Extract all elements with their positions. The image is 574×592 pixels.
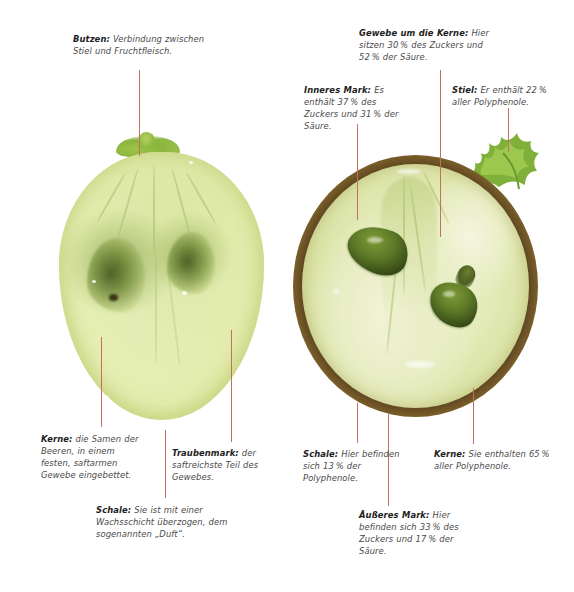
leader-line-kerne-rechts [473,388,474,444]
grape-seed-highlight [367,237,383,243]
annotation-term: Inneres Mark: [304,85,371,95]
grape-anatomy-figure: Butzen: Verbindung zwischen Stiel und Fr… [0,0,574,592]
grape-seed-dark-spot [109,294,118,301]
leader-line-kerne-links [101,337,102,427]
grape-highlight [397,169,421,174]
annotation-gewebe-um-die-kerne: Gewebe um die Kerne: Hier sitzen 30 % de… [359,27,495,63]
grape-highlight [105,396,109,399]
grape-vascular-strand [403,175,405,295]
annotation-butzen: Butzen: Verbindung zwischen Stiel und Fr… [73,33,223,57]
grape-highlight [333,289,340,294]
leader-line-traubenmark [231,330,232,442]
annotation-term: Äußeres Mark: [359,510,430,520]
amber-grape-cross-section-image [293,155,538,417]
grape-highlight [182,291,187,295]
annotation-term: Stiel: [452,85,477,95]
leader-line-gewebe-um-die-kerne [440,70,441,237]
annotation-term: Gewebe um die Kerne: [359,28,468,38]
annotation-term: Traubenmark: [172,448,239,458]
leader-line-schale-links [165,430,166,498]
grape-vein [153,164,155,256]
annotation-term: Schale: [303,449,338,459]
annotation-term: Schale: [96,505,131,515]
leader-line-inneres-mark [357,124,358,220]
annotation-kerne-links: Kerne: die Samen der Beeren, in einem fe… [41,433,145,481]
annotation-kerne-rechts: Kerne: Sie enthalten 65 % aller Polyphen… [434,448,552,472]
leader-line-stiel [508,108,509,152]
annotation-schale-rechts: Schale: Hier befinden sich 13 % der Poly… [303,448,403,484]
annotation-term: Kerne: [434,449,465,459]
grape-stem-nub-left [139,132,155,149]
grape-seed-cavity [87,238,145,312]
annotation-inneres-mark: Inneres Mark: Es enthält 37 % des Zucker… [304,84,402,132]
grape-vein [155,252,157,362]
annotation-traubenmark: Traubenmark: der saftreichste Teil des G… [172,447,284,483]
leader-line-schale-rechts [357,403,358,443]
annotation-schale-links: Schale: Sie ist mit einer Wachsschicht ü… [96,504,232,540]
annotation-aeusseres-mark: Äußeres Mark: Hier befinden sich 33 % de… [359,509,467,557]
grape-highlight [189,161,193,164]
green-grape-cross-section-image [59,152,264,420]
grape-seed-cavity [167,232,215,294]
annotation-stiel: Stiel: Er enthält 22 % aller Polyphenole… [452,84,556,108]
grape-highlight [405,361,435,368]
annotation-term: Kerne: [41,434,72,444]
annotation-term: Butzen: [73,34,110,44]
grape-highlight [92,280,96,283]
grape-seed-highlight [443,291,455,297]
leader-line-butzen [139,70,140,156]
